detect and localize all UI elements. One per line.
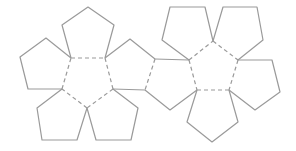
fold-edge <box>145 59 155 90</box>
dodecahedron-net-diagram: Dodecahedron net <box>0 0 296 151</box>
fold-edge <box>87 89 113 108</box>
cut-edge <box>62 7 114 58</box>
cut-edge <box>145 90 197 110</box>
cut-edge <box>87 89 138 140</box>
cut-edge <box>229 60 280 110</box>
cut-edge <box>37 89 87 140</box>
cut-edge <box>113 89 145 90</box>
fold-edge <box>189 60 197 90</box>
fold-edge <box>62 58 71 89</box>
cut-edge <box>162 7 213 60</box>
fold-edge <box>189 41 213 60</box>
fold-edges <box>62 41 238 108</box>
cut-edge <box>105 39 155 59</box>
cut-edge <box>155 59 189 60</box>
cut-edge <box>213 7 263 60</box>
fold-edge <box>62 89 87 108</box>
fold-edge <box>229 60 238 90</box>
fold-edge <box>213 41 238 60</box>
fold-edge <box>105 58 113 89</box>
cut-edge <box>187 90 238 142</box>
cut-edge <box>20 38 71 89</box>
